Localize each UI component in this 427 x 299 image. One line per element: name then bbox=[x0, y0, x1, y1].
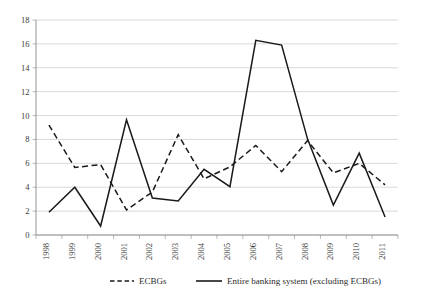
x-tick-label: 2005 bbox=[222, 243, 232, 260]
y-tick-label: 12 bbox=[21, 87, 30, 97]
chart-legend: ECBGs Entire banking system (excluding E… bbox=[110, 276, 381, 286]
chart-canvas: 024681012141618 199819992000200120022003… bbox=[0, 0, 427, 299]
x-tick-label: 1999 bbox=[67, 243, 77, 260]
line-chart: 024681012141618 199819992000200120022003… bbox=[0, 0, 427, 299]
x-tick-label: 2003 bbox=[170, 243, 180, 260]
y-tick-label: 2 bbox=[25, 206, 29, 216]
y-tick-label: 18 bbox=[21, 15, 30, 25]
legend-label-ecbgs: ECBGs bbox=[139, 276, 167, 286]
x-tick-label: 2002 bbox=[144, 243, 154, 260]
x-tick-label: 2011 bbox=[377, 243, 387, 260]
legend-label-entire-banking-system: Entire banking system (excluding ECBGs) bbox=[227, 276, 381, 286]
y-tick-label: 10 bbox=[21, 111, 30, 121]
x-tick-label: 2004 bbox=[196, 242, 206, 260]
x-tick-label: 2008 bbox=[300, 243, 310, 260]
y-tick-label: 14 bbox=[21, 63, 30, 73]
x-tick-label: 2010 bbox=[351, 243, 361, 260]
x-tick-label: 1998 bbox=[41, 243, 51, 260]
y-tick-label: 6 bbox=[25, 158, 29, 168]
y-tick-label: 8 bbox=[25, 134, 29, 144]
x-tick-label: 2000 bbox=[93, 243, 103, 260]
y-tick-label: 16 bbox=[21, 39, 30, 49]
x-tick-label: 2006 bbox=[248, 243, 258, 260]
x-tick-label: 2007 bbox=[274, 243, 284, 260]
x-tick-label: 2001 bbox=[119, 243, 129, 260]
y-tick-label: 0 bbox=[25, 230, 29, 240]
x-tick-label: 2009 bbox=[325, 243, 335, 260]
